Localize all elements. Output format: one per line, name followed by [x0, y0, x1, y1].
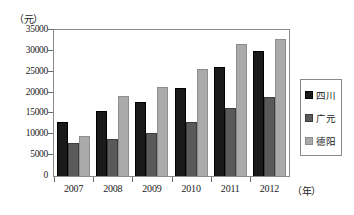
y-tick-label: 35000	[26, 24, 48, 34]
y-tick-mark	[48, 112, 53, 113]
bar	[253, 51, 264, 176]
bar	[146, 133, 157, 176]
x-tick-mark	[132, 177, 133, 182]
bar-group	[211, 30, 250, 176]
y-tick-mark	[48, 50, 53, 51]
bar	[214, 67, 225, 176]
bar	[107, 139, 118, 176]
y-tick-label: 30000	[26, 45, 48, 55]
bar-group	[172, 30, 211, 176]
bar	[135, 102, 146, 176]
bar	[57, 122, 68, 176]
y-tick-label: 20000	[26, 87, 48, 97]
y-tick-label: 25000	[26, 66, 48, 76]
legend-swatch-icon	[305, 114, 313, 122]
bar	[264, 97, 275, 176]
bars-area	[54, 30, 289, 176]
y-tick-mark	[48, 154, 53, 155]
y-tick-label: 15000	[26, 107, 48, 117]
y-tick-mark	[48, 29, 53, 30]
x-tick-mark	[93, 177, 94, 182]
bar	[96, 111, 107, 176]
x-tick-mark	[172, 177, 173, 182]
legend-item[interactable]: 德阳	[305, 134, 341, 148]
x-tick-mark	[211, 177, 212, 182]
bar	[275, 39, 286, 176]
y-tick-mark	[48, 71, 53, 72]
bar	[225, 108, 236, 176]
bar-group	[250, 30, 289, 176]
x-tick-label: 2011	[221, 183, 240, 194]
legend-label: 德阳	[316, 134, 335, 148]
legend-swatch-icon	[305, 137, 313, 145]
bar	[175, 88, 186, 176]
legend-item[interactable]: 四川	[305, 88, 341, 102]
legend-label: 四川	[316, 88, 335, 102]
y-tick-mark	[48, 92, 53, 93]
x-tick-label: 2009	[142, 183, 161, 194]
legend-item[interactable]: 广元	[305, 111, 341, 125]
x-tick-label: 2008	[103, 183, 122, 194]
y-tick-label: 5000	[30, 149, 48, 159]
x-axis-unit-label: （年）	[292, 183, 321, 198]
bar	[157, 87, 168, 176]
x-tick-label: 2012	[260, 183, 279, 194]
x-tick-label: 2010	[181, 183, 200, 194]
bar	[118, 96, 129, 177]
legend: 四川广元德阳	[300, 79, 342, 156]
y-tick-mark	[48, 133, 53, 134]
bar-chart: （元） 05000100001500020000250003000035000 …	[0, 0, 354, 215]
bar-group	[132, 30, 171, 176]
y-tick-label: 10000	[26, 128, 48, 138]
y-tick-label: 0	[44, 170, 48, 180]
x-tick-label: 2007	[64, 183, 83, 194]
bar	[79, 136, 90, 176]
x-tick-mark	[54, 177, 55, 182]
bar	[197, 69, 208, 176]
bar	[68, 143, 79, 176]
bar-group	[54, 30, 93, 176]
legend-swatch-icon	[305, 91, 313, 99]
bar-group	[93, 30, 132, 176]
bar	[236, 44, 247, 176]
x-tick-mark	[250, 177, 251, 182]
y-axis: 05000100001500020000250003000035000	[0, 29, 48, 177]
bar	[186, 122, 197, 176]
legend-label: 广元	[316, 111, 335, 125]
